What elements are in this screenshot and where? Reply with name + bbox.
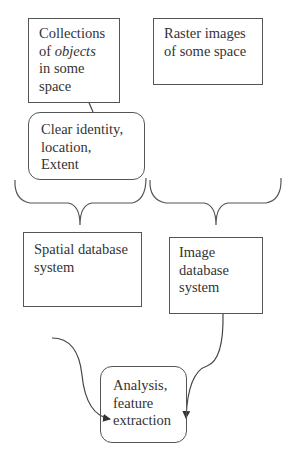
image-db-box: Image database system bbox=[169, 237, 263, 314]
right-brace bbox=[150, 178, 281, 225]
image-db-line-1: Image bbox=[179, 244, 262, 262]
analysis-line-1: Analysis, bbox=[113, 377, 186, 395]
image-to-analysis-arrow bbox=[186, 313, 223, 418]
image-db-line-3: system bbox=[179, 279, 262, 297]
spatial-db-line-2: system bbox=[34, 259, 141, 277]
collections-line-1: Collections bbox=[39, 25, 119, 43]
left-brace bbox=[15, 178, 146, 225]
raster-line-2: of some space bbox=[164, 43, 262, 61]
analysis-line-2: feature bbox=[113, 395, 186, 413]
raster-line-1: Raster images bbox=[164, 25, 262, 43]
collections-line-4: space bbox=[39, 78, 119, 96]
identity-line-2: location, bbox=[41, 139, 144, 157]
identity-box: Clear identity, location, Extent bbox=[28, 112, 145, 180]
collections-line-2: of objects bbox=[39, 43, 119, 61]
identity-line-1: Clear identity, bbox=[41, 121, 144, 139]
analysis-line-3: extraction bbox=[113, 412, 186, 430]
collections-line-3: in some bbox=[39, 60, 119, 78]
image-db-line-2: database bbox=[179, 262, 262, 280]
spatial-db-line-1: Spatial database bbox=[34, 241, 141, 259]
collections-box: Collections of objects in some space bbox=[28, 18, 120, 103]
analysis-box: Analysis, feature extraction bbox=[100, 366, 187, 443]
raster-box: Raster images of some space bbox=[153, 18, 263, 85]
spatial-db-box: Spatial database system bbox=[23, 232, 142, 307]
identity-line-3: Extent bbox=[41, 156, 144, 174]
objects-emphasis: objects bbox=[55, 43, 96, 59]
